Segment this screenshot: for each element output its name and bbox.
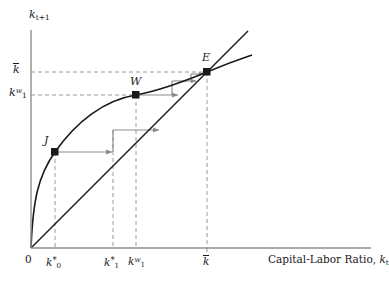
point-w [132,91,140,99]
point-e [203,68,211,76]
y-tick-k1w-base: k [9,86,16,99]
y-tick-label-kbar: k [13,64,20,75]
x-tick-label-k1star: k*1 [104,256,119,269]
y-tick-label-k1w: kw1 [9,87,27,100]
y-axis-label-base: k [29,8,36,21]
y-tick-k1w-sub: 1 [22,91,27,100]
x-axis-title: Capital-Labor Ratio, kt [268,254,389,266]
origin-label: 0 [25,254,32,265]
x-tick-kbar-base: k [203,255,209,267]
point-label-j: J [44,135,48,146]
x-tick-k1star-sub: 1 [115,261,120,270]
x-axis-title-text: Capital-Labor Ratio, [268,253,379,265]
x-tick-k0star-sub: 0 [57,261,62,270]
x-tick-k1w-sub: 1 [140,260,145,269]
x-tick-label-kbar: k [203,256,209,267]
point-j [51,148,59,156]
point-label-w: W [130,76,141,87]
axes [31,30,371,248]
x-tick-label-k0star: k*0 [46,256,61,269]
y-tick-kbar-base: k [13,63,20,76]
y-axis-label-sub: t+1 [36,13,50,22]
x-tick-label-k1w: kw1 [128,256,145,268]
y-axis-label: kt+1 [29,9,50,22]
x-axis-title-sub: t [386,258,389,267]
point-label-e: E [202,52,210,63]
